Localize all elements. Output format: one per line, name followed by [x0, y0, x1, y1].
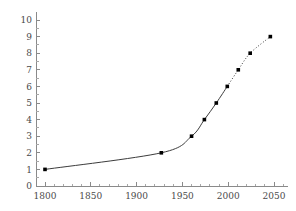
projection-line	[227, 37, 270, 87]
data-point-marker	[269, 35, 273, 39]
y-tick-label: 9	[26, 32, 32, 42]
data-point-marker	[225, 85, 229, 89]
data-point-marker	[248, 51, 252, 55]
y-tick-label: 3	[26, 131, 32, 141]
y-tick-label: 10	[21, 15, 33, 25]
x-tick-label: 2000	[217, 191, 240, 201]
data-point-marker	[236, 68, 240, 72]
y-tick-label: 4	[26, 115, 32, 125]
data-point-marker	[190, 134, 194, 138]
y-tick-label: 6	[26, 82, 32, 92]
population-growth-plot: 012345678910 180018501900195020002050	[0, 0, 296, 211]
data-point-marker	[43, 168, 47, 172]
y-tick-label: 5	[26, 98, 32, 108]
observed-line	[45, 86, 227, 169]
x-tick-label: 1900	[125, 191, 148, 201]
x-tick-label: 2050	[263, 191, 286, 201]
x-tick-label: 1800	[34, 191, 57, 201]
x-tick-label: 1950	[171, 191, 194, 201]
data-point-marker	[160, 151, 164, 155]
data-series-layer	[43, 35, 272, 171]
y-tick-label: 2	[26, 148, 32, 158]
x-tick-label: 1850	[79, 191, 102, 201]
y-tick-label: 0	[26, 181, 32, 191]
x-axis: 180018501900195020002050	[34, 182, 288, 201]
y-tick-label: 1	[26, 165, 32, 175]
chart-container: 012345678910 180018501900195020002050	[0, 0, 296, 211]
y-tick-label: 8	[26, 48, 32, 58]
data-point-marker	[214, 101, 218, 105]
y-tick-label: 7	[26, 65, 32, 75]
y-axis: 012345678910	[21, 12, 40, 191]
data-point-marker	[203, 118, 207, 122]
